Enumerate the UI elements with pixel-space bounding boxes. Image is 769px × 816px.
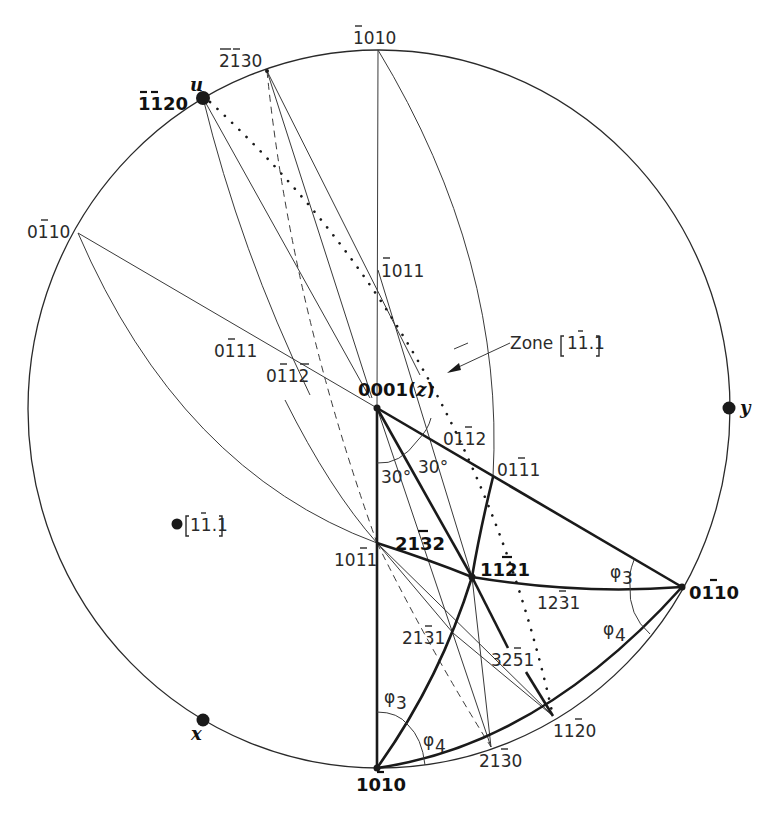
- label-phi4-right: φ 4: [603, 619, 626, 645]
- line-2130-to-0001-b: [267, 71, 420, 375]
- svg-text:1231: 1231: [537, 593, 580, 613]
- zone-arrow-head-icon: [447, 363, 461, 373]
- svg-text:φ: φ: [610, 562, 621, 582]
- svg-text:1011: 1011: [381, 261, 424, 281]
- svg-text:3: 3: [396, 693, 407, 713]
- svg-text:u: u: [190, 74, 203, 95]
- label-angle-30-right: 30°: [418, 457, 448, 477]
- label-2130-top: 2130: [219, 49, 262, 71]
- svg-text:0110: 0110: [689, 582, 739, 603]
- label-zone-pole-11-1: 11.1: [186, 513, 228, 536]
- svg-text:0111: 0111: [214, 341, 257, 361]
- label-zone-11-1: Zone 11.1: [510, 331, 605, 356]
- label-0111-left: 0111: [214, 339, 257, 361]
- label-1011-lower: 1011: [334, 548, 377, 570]
- svg-text:4: 4: [435, 736, 446, 756]
- label-2130-bottom: 2130: [479, 749, 522, 771]
- label-1010-top: 1010: [353, 26, 396, 48]
- zone-arrow-line: [454, 343, 468, 349]
- label-phi3-right: φ 3: [610, 562, 633, 588]
- zone-11-1-dotted-great-circle: [210, 102, 553, 716]
- svg-text:0112: 0112: [266, 366, 309, 386]
- label-1231: 1231: [537, 591, 580, 613]
- label-0112-right: 0112: [443, 427, 486, 449]
- svg-text:2130: 2130: [479, 751, 522, 771]
- svg-text:1121: 1121: [480, 559, 530, 580]
- svg-text:φ: φ: [603, 619, 614, 639]
- svg-text:1120: 1120: [553, 721, 596, 741]
- label-x-axis: x: [190, 723, 202, 744]
- zone-line-vertical-upper: [377, 50, 378, 408]
- line-2130-to-0001-a: [267, 71, 372, 398]
- svg-text:0112: 0112: [443, 429, 486, 449]
- svg-text:φ: φ: [384, 687, 395, 707]
- dashed-arc-2130-to-1011: [267, 71, 377, 543]
- label-phi4-bottom: φ 4: [423, 730, 446, 756]
- svg-text:1011: 1011: [334, 550, 377, 570]
- label-1120-bottom: 1120: [553, 719, 596, 741]
- label-angle-30-left: 30°: [381, 467, 411, 487]
- label-1120-u: 1120 u: [138, 74, 203, 114]
- label-0001-z: 0001(z): [358, 379, 435, 400]
- svg-text:Zone: Zone: [510, 333, 553, 353]
- label-1121: 1121: [480, 557, 530, 580]
- pole-1010-bottom: [374, 765, 381, 772]
- label-y-axis: y: [739, 397, 752, 418]
- stereogram-canvas: 1010 2130 1120 u 0110 1011 0111 0112 000…: [0, 0, 769, 816]
- arc-0110-to-1011: [78, 233, 377, 543]
- zone-line-0110-0001: [78, 233, 377, 408]
- angle-arc-phi4-right: [630, 585, 650, 634]
- pole-0001: [374, 405, 381, 412]
- svg-text:2132: 2132: [395, 533, 445, 554]
- label-1011-upper: 1011: [381, 258, 424, 281]
- pole-2130-top: [265, 69, 269, 73]
- label-1010-bottom: 1010: [356, 772, 406, 795]
- pole-y: [723, 402, 736, 415]
- svg-text:0111: 0111: [497, 460, 540, 480]
- svg-text:φ: φ: [423, 730, 434, 750]
- label-phi3-bottom: φ 3: [384, 687, 407, 713]
- svg-text:1120: 1120: [138, 93, 188, 114]
- label-0110-left: 0110: [27, 220, 70, 242]
- svg-text:1010: 1010: [356, 774, 406, 795]
- svg-text:4: 4: [615, 625, 626, 645]
- stereographic-projection-figure: 1010 2130 1120 u 0110 1011 0111 0112 000…: [0, 0, 769, 816]
- label-0112-left: 0112: [266, 364, 309, 386]
- svg-text:0001(z): 0001(z): [358, 379, 435, 400]
- label-2131: 2131: [402, 626, 445, 648]
- label-0111-right: 0111: [497, 458, 540, 480]
- label-3251: 3251: [491, 648, 534, 670]
- angle-arc-phi3-bottom: [377, 712, 408, 725]
- svg-text:2130: 2130: [219, 51, 262, 71]
- thick-arc-0111-1121-1010: [377, 477, 493, 768]
- svg-text:2131: 2131: [402, 628, 445, 648]
- svg-text:3251: 3251: [491, 650, 534, 670]
- arc-0112-to-1011: [285, 400, 377, 543]
- thick-line-1121-to-3251-a: [472, 577, 508, 648]
- label-0110-right: 0110: [689, 580, 739, 603]
- pole-zone-11-1: [172, 519, 183, 530]
- pole-0110-right: [679, 584, 686, 591]
- svg-text:0110: 0110: [27, 222, 70, 242]
- svg-text:1010: 1010: [353, 28, 396, 48]
- label-2132: 2132: [395, 531, 445, 554]
- pole-1121: [469, 574, 476, 581]
- svg-text:3: 3: [622, 568, 633, 588]
- line-2131-to-1120: [453, 633, 553, 716]
